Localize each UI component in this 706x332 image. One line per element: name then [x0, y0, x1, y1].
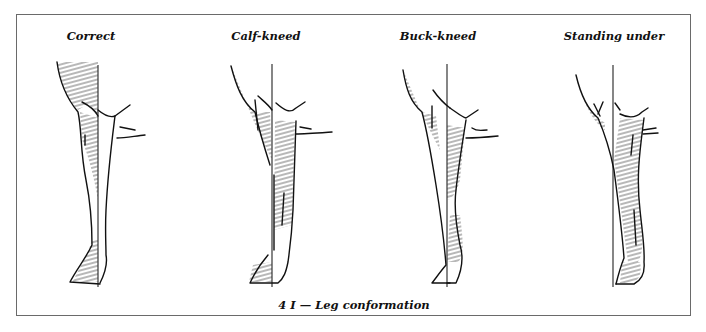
- leg-drawing-correct: [57, 62, 145, 287]
- leg-drawing-standing-under: [576, 65, 658, 287]
- leg-drawing-calf-kneed: [231, 64, 332, 287]
- leg-drawing-buck-kneed: [403, 64, 498, 287]
- leg-illustrations: [0, 0, 706, 332]
